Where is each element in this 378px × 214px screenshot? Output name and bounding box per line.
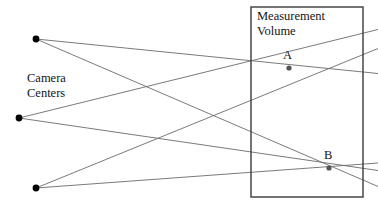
camera-center-middle	[16, 115, 23, 122]
point-a-label: A	[283, 48, 292, 63]
point-a-dot	[286, 65, 291, 70]
point-b-label: B	[324, 148, 332, 163]
point-b-dot	[326, 165, 331, 170]
measurement-volume-label: Measurement Volume	[257, 9, 325, 39]
camera-centers-label: Camera Centers	[27, 71, 66, 101]
camera-center-top	[33, 36, 40, 43]
camera-geometry-figure: Measurement Volume Camera Centers A B	[0, 0, 378, 214]
ray-top-to-b	[36, 39, 378, 187]
ray-top-to-a	[36, 39, 378, 74]
ray-group	[19, 30, 378, 189]
camera-center-bottom	[33, 185, 40, 192]
